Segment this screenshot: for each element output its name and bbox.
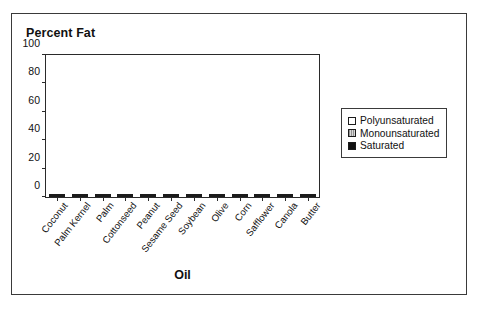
x-axis-title: Oil xyxy=(45,268,320,282)
legend-swatch-icon xyxy=(348,129,356,137)
legend-item[interactable]: Polyunsaturated xyxy=(348,115,439,127)
bar-column[interactable] xyxy=(162,55,180,197)
x-axis-tick-label: Olive xyxy=(209,200,231,224)
plot-area: 020406080100 xyxy=(45,54,320,198)
bar-column[interactable] xyxy=(299,55,317,197)
chart-title: Percent Fat xyxy=(26,26,95,40)
legend-swatch-icon xyxy=(348,117,356,125)
chart-legend: PolyunsaturatedMonounsaturatedSaturated xyxy=(341,108,447,158)
legend-label: Saturated xyxy=(360,140,404,151)
bar-series-group xyxy=(46,55,319,197)
x-axis-tick-label: Canola xyxy=(272,200,299,231)
legend-item[interactable]: Saturated xyxy=(348,140,439,152)
bar-column[interactable] xyxy=(185,55,203,197)
bar-column[interactable] xyxy=(48,55,66,197)
x-axis-tick-label: Corn xyxy=(232,200,253,223)
legend-label: Monounsaturated xyxy=(360,128,439,139)
bar-column[interactable] xyxy=(71,55,89,197)
x-axis-tick-label: Butter xyxy=(298,200,322,227)
bar-column[interactable] xyxy=(253,55,271,197)
legend-item[interactable]: Monounsaturated xyxy=(348,127,439,139)
bar-column[interactable] xyxy=(139,55,157,197)
bar-column[interactable] xyxy=(208,55,226,197)
bar-column[interactable] xyxy=(94,55,112,197)
legend-swatch-icon xyxy=(348,142,356,150)
x-axis-tick-labels: CoconutPalm KernelPalmCottonseedPeanutSe… xyxy=(45,200,320,262)
bar-column[interactable] xyxy=(231,55,249,197)
bar-column[interactable] xyxy=(276,55,294,197)
chart-figure: Percent Fat 020406080100 CoconutPalm Ker… xyxy=(0,0,483,310)
legend-label: Polyunsaturated xyxy=(360,115,434,126)
bar-column[interactable] xyxy=(116,55,134,197)
